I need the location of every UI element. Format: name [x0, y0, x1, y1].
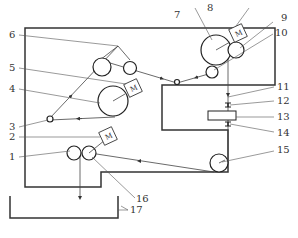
label-6: 6	[9, 29, 15, 40]
label-16: 16	[136, 193, 149, 204]
press-unit-13	[208, 111, 236, 120]
label-11: 11	[277, 81, 290, 92]
motor-icon: M	[229, 24, 248, 43]
label-12: 12	[277, 95, 290, 106]
roller-10	[206, 66, 218, 78]
mechanical-diagram: M M M 1 2 3 4 5 6 7 8 9 10 11 12 13	[0, 0, 298, 238]
label-14: 14	[277, 127, 290, 138]
collection-tank	[10, 196, 118, 218]
label-17: 17	[130, 204, 143, 215]
label-2: 2	[9, 131, 15, 142]
small-idler	[175, 80, 180, 85]
label-5: 5	[9, 62, 15, 73]
label-3: 3	[9, 121, 15, 132]
label-4: 4	[9, 83, 15, 94]
nip-roller-1	[67, 146, 81, 160]
label-7: 7	[174, 9, 180, 20]
label-1: 1	[9, 151, 15, 162]
label-13: 13	[277, 111, 290, 122]
label-9: 9	[281, 12, 287, 23]
belt-path	[50, 46, 228, 198]
roller-6b	[124, 62, 137, 75]
idler-3	[47, 116, 53, 122]
label-10: 10	[275, 27, 288, 38]
label-15: 15	[277, 144, 290, 155]
roller-6a	[93, 58, 111, 76]
label-8: 8	[207, 2, 213, 13]
roller-9	[228, 42, 244, 58]
